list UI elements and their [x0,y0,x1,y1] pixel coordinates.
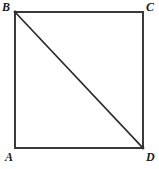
vertex-label-d: D [146,151,155,163]
vertex-point-D [142,147,145,150]
square-diagram-svg [0,0,159,169]
vertex-point-B [14,11,17,14]
vertex-label-a: A [5,151,13,163]
geometry-figure: B C A D [0,0,159,169]
vertex-label-b: B [2,1,10,13]
vertex-label-c: C [146,1,154,13]
